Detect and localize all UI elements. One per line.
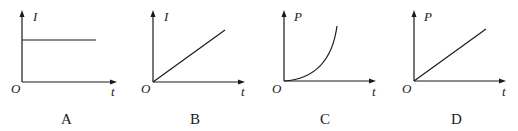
x-axis-label: t	[241, 84, 245, 99]
panel-caption: B	[190, 111, 200, 127]
origin-label: O	[11, 81, 21, 96]
panel-a: I O t A	[11, 9, 117, 127]
data-line	[414, 29, 486, 81]
x-axis-arrow-icon	[499, 79, 506, 84]
x-axis-label: t	[372, 84, 376, 99]
panel-caption: A	[61, 111, 72, 127]
y-axis-label: P	[423, 9, 432, 24]
origin-label: O	[141, 81, 151, 96]
panel-caption: D	[451, 111, 462, 127]
y-axis-arrow-icon	[282, 10, 287, 17]
origin-label: O	[402, 81, 412, 96]
y-axis-label: I	[163, 9, 169, 24]
y-axis-arrow-icon	[151, 10, 156, 17]
panel-d: P O t D	[402, 9, 506, 127]
figure: I O t A I O t B P O t C P O t D	[0, 0, 518, 131]
y-axis-label: I	[32, 9, 38, 24]
y-axis-label: P	[293, 9, 302, 24]
panel-c: P O t C	[272, 9, 376, 127]
x-axis-arrow-icon	[369, 79, 376, 84]
data-line	[153, 30, 225, 82]
y-axis-arrow-icon	[412, 10, 417, 17]
panel-b: I O t B	[141, 9, 245, 127]
origin-label: O	[272, 81, 282, 96]
panel-caption: C	[320, 111, 330, 127]
data-curve	[284, 26, 337, 81]
y-axis-arrow-icon	[20, 10, 25, 17]
x-axis-label: t	[111, 84, 115, 99]
x-axis-label: t	[502, 84, 506, 99]
